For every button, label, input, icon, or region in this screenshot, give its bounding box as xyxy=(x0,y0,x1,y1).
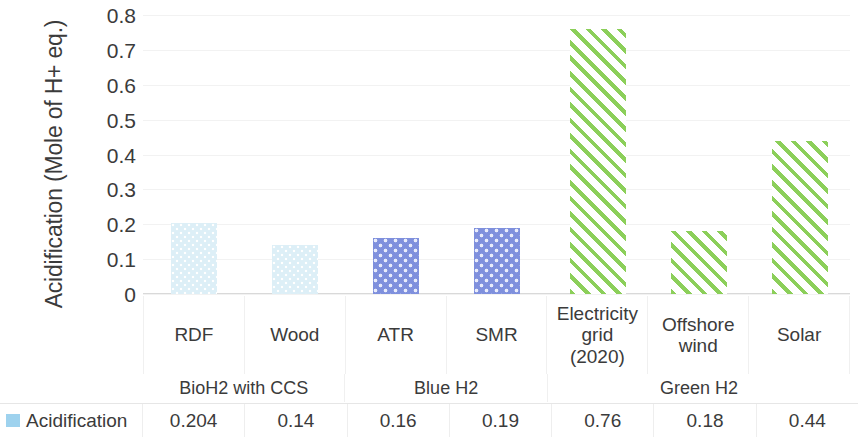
bar-column xyxy=(446,8,547,294)
legend-entry: Acidification xyxy=(0,404,143,437)
bar[interactable] xyxy=(671,231,727,294)
group-label: Green H2 xyxy=(548,374,850,402)
data-value-cell: 0.44 xyxy=(757,404,858,437)
bar[interactable] xyxy=(272,245,318,294)
group-label-text: Blue H2 xyxy=(414,378,478,399)
category-label-line: Electricity xyxy=(557,303,638,324)
bar[interactable] xyxy=(474,228,520,294)
category-label-line: RDF xyxy=(174,324,213,345)
group-label: Blue H2 xyxy=(345,374,547,402)
gridline xyxy=(143,294,850,295)
data-value-cells: 0.2040.140.160.190.760.180.44 xyxy=(143,404,858,437)
y-axis-tick-label: 0.4 xyxy=(84,145,136,166)
y-axis-tick-label: 0.5 xyxy=(84,110,136,131)
bar-column xyxy=(345,8,446,294)
bar-column xyxy=(244,8,345,294)
category-label: RDF xyxy=(143,296,245,374)
group-label-row: BioH2 with CCSBlue H2Green H2 xyxy=(143,374,850,402)
bar[interactable] xyxy=(373,238,419,294)
group-label-text: BioH2 with CCS xyxy=(179,378,308,399)
data-value-cell: 0.14 xyxy=(245,404,347,437)
category-label-line: wind xyxy=(662,335,735,356)
category-label: SMR xyxy=(447,296,548,374)
legend-swatch-icon xyxy=(6,414,20,427)
category-label: ATR xyxy=(346,296,447,374)
category-label-line: Solar xyxy=(777,324,821,345)
y-axis-title: Acidification (Mole of H+ eq.) xyxy=(37,4,71,324)
data-table-row: Acidification 0.2040.140.160.190.760.180… xyxy=(0,403,858,437)
bar-series xyxy=(143,8,850,294)
bar[interactable] xyxy=(171,223,217,294)
category-label: Offshorewind xyxy=(648,296,749,374)
data-value-cell: 0.16 xyxy=(348,404,450,437)
data-value-cell: 0.76 xyxy=(552,404,654,437)
y-axis-tick-label: 0 xyxy=(84,284,136,305)
y-axis-tick-labels: 0.80.70.60.50.40.30.20.10 xyxy=(84,0,136,302)
category-label: Electricitygrid(2020) xyxy=(547,296,648,374)
y-axis-tick-label: 0.6 xyxy=(84,75,136,96)
bar-column xyxy=(547,8,648,294)
category-label-line: SMR xyxy=(475,324,517,345)
bar-column xyxy=(648,8,749,294)
category-label: Solar xyxy=(749,296,850,374)
category-label-line: Offshore xyxy=(662,314,735,335)
data-value-cell: 0.19 xyxy=(450,404,552,437)
chart-container: Acidification (Mole of H+ eq.) 0.80.70.6… xyxy=(0,0,858,437)
y-axis-tick-label: 0.2 xyxy=(84,214,136,235)
category-label-line: Wood xyxy=(270,324,319,345)
group-label-text: Green H2 xyxy=(660,378,738,399)
bar[interactable] xyxy=(772,141,828,294)
y-axis-tick-label: 0.7 xyxy=(84,40,136,61)
data-value-cell: 0.204 xyxy=(143,404,245,437)
bar-column xyxy=(749,8,850,294)
category-label-line: (2020) xyxy=(557,346,638,367)
plot-area xyxy=(143,8,850,294)
bar-column xyxy=(143,8,244,294)
data-value-cell: 0.18 xyxy=(654,404,756,437)
y-axis-tick-label: 0.8 xyxy=(84,5,136,26)
category-label-line: ATR xyxy=(377,324,414,345)
category-label-row: RDFWoodATRSMRElectricitygrid(2020)Offsho… xyxy=(143,296,850,374)
category-label-line: grid xyxy=(557,324,638,345)
y-axis-tick-label: 0.3 xyxy=(84,179,136,200)
legend-label: Acidification xyxy=(26,410,127,432)
category-label: Wood xyxy=(245,296,346,374)
bar[interactable] xyxy=(570,29,626,294)
y-axis-tick-label: 0.1 xyxy=(84,249,136,270)
group-label: BioH2 with CCS xyxy=(143,374,345,402)
